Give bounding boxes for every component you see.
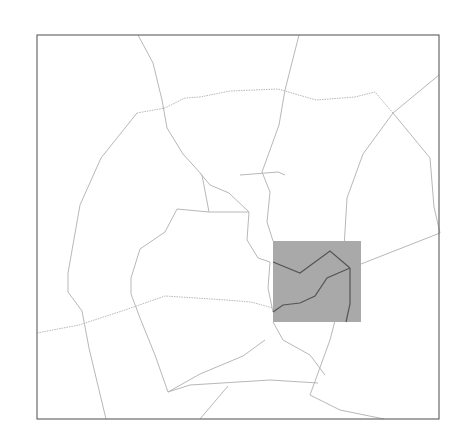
highlighted-region[interactable] — [273, 241, 361, 322]
map-canvas[interactable] — [0, 0, 463, 440]
map-background — [0, 0, 463, 440]
